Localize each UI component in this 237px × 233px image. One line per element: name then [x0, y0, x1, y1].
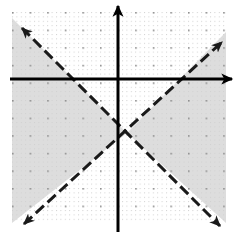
coordinate-plane-svg: [0, 0, 237, 233]
graph-canvas: [0, 0, 237, 233]
